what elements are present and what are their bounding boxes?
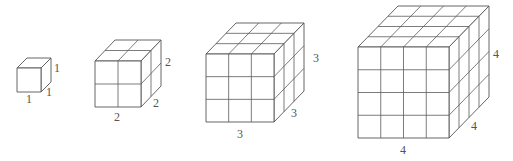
cube-3-depth-label: 3 <box>291 107 297 119</box>
cube-1-width-label: 1 <box>26 93 32 105</box>
cubes-canvas <box>0 0 513 161</box>
cube-4-width-label: 4 <box>400 144 406 156</box>
cube-4 <box>358 6 489 138</box>
cube-4-height-label: 4 <box>493 48 499 60</box>
cube-3-front-face <box>206 54 274 122</box>
cube-1-depth-label: 1 <box>46 86 52 98</box>
cube-2-depth-label: 2 <box>153 97 159 109</box>
cube-3 <box>206 23 304 122</box>
cube-2-height-label: 2 <box>165 56 171 68</box>
cube-1-front-face <box>17 68 41 92</box>
cube-3-width-label: 3 <box>237 128 243 140</box>
cube-1-height-label: 1 <box>54 62 60 74</box>
cube-4-depth-label: 4 <box>471 120 477 132</box>
cube-3-height-label: 3 <box>313 52 319 64</box>
cube-2-width-label: 2 <box>114 111 120 123</box>
cube-2 <box>95 40 161 107</box>
